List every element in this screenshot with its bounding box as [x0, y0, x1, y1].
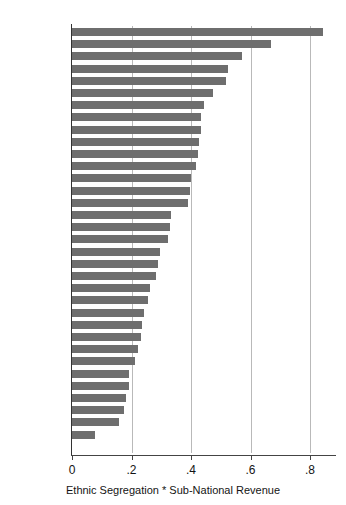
bar-row: Dom Rep [72, 282, 346, 294]
x-tick-label: .2 [126, 463, 136, 477]
bar [72, 211, 171, 219]
bar [72, 260, 158, 268]
bar-row: Argentina [72, 392, 346, 404]
tick-mark-.6 [251, 455, 252, 460]
bar [72, 28, 323, 36]
bar [72, 162, 196, 170]
bar-row: Germany [72, 209, 346, 221]
bar [72, 382, 129, 390]
bar-row: Bolivia [72, 197, 346, 209]
bar [72, 309, 144, 317]
bar [72, 113, 201, 121]
bar-row: UK [72, 258, 346, 270]
bar-row: Hungary [72, 319, 346, 331]
bar-row: India [72, 75, 346, 87]
bar [72, 345, 138, 353]
bar [72, 77, 226, 85]
bar [72, 418, 119, 426]
tick-mark-.8 [310, 455, 311, 460]
x-axis-tick-labels: 0.2.4.6.8 [0, 463, 346, 479]
bar-row: US [72, 63, 346, 75]
tick-mark-.4 [191, 455, 192, 460]
bar-row: Portugal [72, 429, 346, 441]
bar [72, 235, 168, 243]
bar [72, 321, 142, 329]
bar [72, 199, 188, 207]
bar-rows: South AfricaCanadaSwitzerlandUSIndiaTaiw… [72, 26, 346, 453]
bar-row: Belgium [72, 111, 346, 123]
bar [72, 272, 156, 280]
bar-row: Spain [72, 136, 346, 148]
bar [72, 296, 148, 304]
bar [72, 223, 170, 231]
bar-row: Peru [72, 185, 346, 197]
bar-row: Uruguay [72, 331, 346, 343]
bar-row: Honduras [72, 416, 346, 428]
bar-row: Czech Rep [72, 124, 346, 136]
bar [72, 89, 213, 97]
bar-row: Australia [72, 160, 346, 172]
bar [72, 431, 95, 439]
bar [72, 138, 199, 146]
bar-row: Nicaragua [72, 233, 346, 245]
bar-row: Mexico [72, 246, 346, 258]
bar [72, 187, 190, 195]
x-axis-line [71, 455, 336, 456]
bar-row: Taiwan [72, 87, 346, 99]
x-tick-label: 0 [69, 463, 76, 477]
bar [72, 101, 204, 109]
bar [72, 174, 191, 182]
bar-row: Costa Rica [72, 404, 346, 416]
bar [72, 150, 198, 158]
bar-row: Paraguay [72, 221, 346, 233]
bar-row: Chile [72, 294, 346, 306]
bar-row: Austria [72, 343, 346, 355]
bar [72, 394, 126, 402]
bar-row: Panama [72, 148, 346, 160]
x-tick-label: .4 [186, 463, 196, 477]
bar [72, 357, 135, 365]
plot-area: South AfricaCanadaSwitzerlandUSIndiaTaiw… [72, 26, 346, 453]
bar [72, 333, 141, 341]
bar-row: Canada [72, 38, 346, 50]
bar-row: Japan SMD [72, 380, 346, 392]
bar [72, 370, 129, 378]
bar-row: France [72, 355, 346, 367]
bar-row: Switzerland [72, 50, 346, 62]
bar [72, 65, 228, 73]
bar-chart: South AfricaCanadaSwitzerlandUSIndiaTaiw… [0, 0, 346, 505]
bar-row: Japan PR [72, 368, 346, 380]
x-tick-label: .6 [245, 463, 255, 477]
bar [72, 284, 150, 292]
bar-row: Guatemala [72, 99, 346, 111]
bar [72, 406, 124, 414]
bar [72, 40, 271, 48]
x-tick-label: .8 [305, 463, 315, 477]
bar-row: Brazil [72, 172, 346, 184]
bar [72, 52, 242, 60]
bar-row: South Africa [72, 26, 346, 38]
bar [72, 248, 160, 256]
x-axis-title: Ethnic Segregation * Sub-National Revenu… [0, 483, 346, 497]
tick-mark-.2 [132, 455, 133, 460]
bar [72, 126, 201, 134]
bar-row: Romania [72, 307, 346, 319]
bar-row: El Salvador [72, 270, 346, 282]
tick-mark-0 [72, 455, 73, 460]
